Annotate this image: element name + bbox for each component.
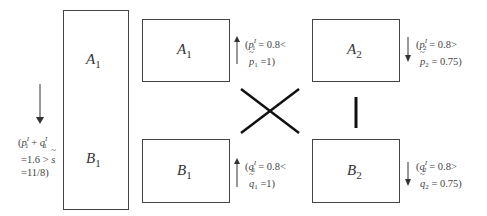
equation: = 0.75) [429, 178, 462, 189]
equation: = 0.8> [427, 161, 457, 172]
tall-box-label-b1: B1 [86, 150, 101, 169]
sub: 1 [43, 142, 47, 150]
tilde-var: q [249, 177, 254, 190]
b1-up-arrow-icon [234, 158, 240, 187]
letter: A [177, 41, 186, 57]
left-note: (pI1 + qI1 =1.6 > s =11/8) [18, 133, 55, 179]
letter: A [347, 41, 356, 57]
box-a1-label: A1 [177, 41, 192, 60]
note-b2: (qI2 = 0.8> q2 = 0.75) [416, 157, 462, 194]
note-b1: (qI1 = 0.8< q1 =1) [245, 157, 286, 194]
tall-box-label-a1: A1 [86, 51, 101, 70]
tilde-var: p [249, 55, 254, 68]
cross-links [241, 89, 299, 133]
equation: =1) [258, 178, 275, 189]
letter: B [177, 162, 186, 178]
equation: = 0.8< [256, 161, 286, 172]
a1-up-arrow-icon [234, 36, 240, 64]
b2-down-arrow-icon [405, 162, 411, 186]
note-a1: (pI1 = 0.8< p1 =1) [245, 35, 286, 72]
equation: =1) [258, 56, 275, 67]
subscript: 1 [95, 157, 101, 169]
a2-down-arrow-icon [405, 37, 411, 62]
text: =11/8) [21, 167, 49, 178]
text: =1.6 > [21, 154, 51, 165]
subscript: 2 [356, 48, 362, 60]
left-note-line1: (pI1 + qI1 [18, 133, 55, 153]
tilde-var: p [420, 55, 425, 68]
letter: A [86, 51, 95, 67]
equation: = 0.75) [429, 56, 462, 67]
plus: + [29, 137, 40, 148]
left-note-line3: =11/8) [21, 166, 55, 179]
equation: = 0.8< [256, 39, 286, 50]
tall-box-a1-b1 [63, 10, 129, 210]
letter: B [86, 150, 95, 166]
subscript: 2 [356, 169, 362, 181]
var-s-tilde: s [51, 153, 55, 166]
subscript: 1 [95, 58, 101, 70]
note-a2: (pI2 = 0.8> p2 = 0.75) [416, 35, 462, 72]
box-b1-label: B1 [177, 162, 192, 181]
equation: = 0.8> [427, 39, 457, 50]
tilde-var: q [420, 177, 425, 190]
letter: B [347, 162, 356, 178]
left-down-arrow-icon [36, 84, 44, 124]
subscript: 1 [186, 169, 192, 181]
box-a2-label: A2 [347, 41, 362, 60]
box-b2-label: B2 [347, 162, 362, 181]
subscript: 1 [186, 48, 192, 60]
left-note-line2: =1.6 > s [21, 153, 55, 166]
